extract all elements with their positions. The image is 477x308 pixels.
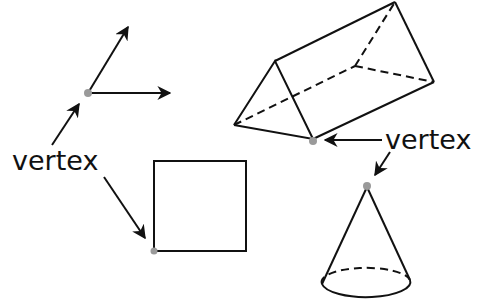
angle-figure [84, 27, 170, 97]
right-vertex-label-group: vertex [325, 124, 471, 175]
prism-vertex-dot [309, 137, 317, 145]
vertex-label-left: vertex [12, 145, 98, 176]
cone-figure [322, 182, 411, 297]
square-figure [151, 161, 247, 255]
cone-vertex-dot [363, 182, 371, 190]
arrow-to-square-vertex [104, 177, 145, 238]
square-vertex-dot [151, 248, 158, 255]
arrow-to-angle-vertex [52, 104, 79, 145]
vertex-diagram: vertex vertex [0, 0, 477, 308]
arrow-to-cone-vertex [375, 152, 390, 175]
angle-vertex-dot [84, 89, 92, 97]
vertex-label-right: vertex [385, 124, 471, 155]
left-vertex-label-group: vertex [12, 104, 145, 238]
